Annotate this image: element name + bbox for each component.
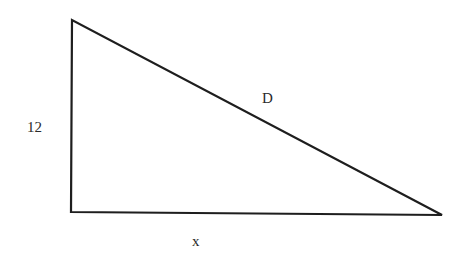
triangle-outline: [71, 20, 442, 215]
diagram-canvas: 12 D x: [0, 0, 467, 266]
base-label: x: [192, 234, 200, 249]
height-label: 12: [27, 120, 42, 135]
hypotenuse-label: D: [262, 91, 273, 106]
right-triangle-shape: [0, 0, 467, 266]
